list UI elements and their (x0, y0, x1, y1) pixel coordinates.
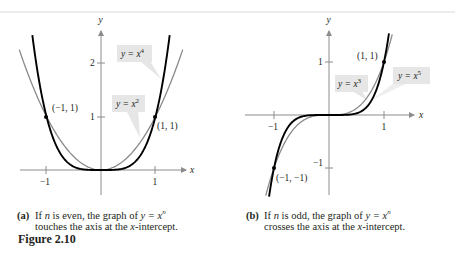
point-1-1 (382, 60, 386, 64)
caption-a-text: is even, the graph of (50, 210, 141, 221)
panel-b-x-tick-label: 1 (382, 122, 387, 132)
caption-b-exponent: n (387, 208, 391, 216)
caption-b-text: -intercept. (362, 221, 405, 232)
panel-a-graph: x y −1 1 1 2 y = x4 y = x2 (−1, 1) (1, 1… (19, 15, 195, 195)
panel-a-x-tick-label: −1 (40, 177, 50, 187)
curve-label-x4-exponent: 4 (141, 47, 145, 55)
caption-a-tag: (a) (17, 210, 35, 222)
label-callout-x2: y = x2 (112, 95, 145, 138)
figure-label: Figure 2.10 (18, 232, 76, 247)
point-1-1 (153, 115, 157, 119)
caption-b-equation: y = x (366, 210, 388, 221)
panel-b-graph: x y −1 1 1 −1 y = x3 y = x5 (1, 1) (−1, … (245, 15, 430, 197)
label-callout-x3: y = x3 (335, 75, 368, 100)
curve-label-x5: y = x (397, 71, 418, 81)
caption-a-text: If (35, 210, 45, 221)
caption-a-text: -intercept. (135, 221, 178, 232)
curve-label-x2: y = x (115, 99, 136, 109)
panel-b-y-tick-label: 1 (318, 57, 323, 67)
caption-a: (a)If n is even, the graph of y = xn tou… (17, 207, 227, 233)
panel-a-y-tick-label: 2 (90, 58, 95, 68)
caption-b-text: If (264, 210, 274, 221)
caption-b-tag: (b) (246, 210, 264, 222)
panel-b-x-tick-label: −1 (268, 122, 278, 132)
point-label-1-1: (1, 1) (357, 51, 378, 62)
caption-a-exponent: n (162, 208, 166, 216)
caption-a-equation: y = x (141, 210, 163, 221)
point-neg1-neg1 (272, 166, 276, 170)
panel-b-x-axis-label: x (418, 110, 424, 120)
panel-a-y-axis-label: y (98, 15, 104, 25)
curve-label-x2-exponent: 2 (136, 97, 140, 105)
point-neg1-1 (44, 115, 48, 119)
point-label-neg1-1: (−1, 1) (52, 103, 78, 114)
curve-label-x4: y = x (120, 49, 141, 59)
caption-b-text: is odd, the graph of (279, 210, 366, 221)
curve-label-x3-exponent: 3 (358, 77, 362, 85)
caption-b: (b)If n is odd, the graph of y = xn cros… (246, 207, 455, 233)
point-label-1-1: (1, 1) (157, 121, 178, 132)
panel-a-x-axis-label: x (189, 165, 195, 175)
panel-b-y-tick-label: −1 (313, 158, 323, 168)
panel-a-x-tick-label: 1 (153, 177, 158, 187)
curve-label-x5-exponent: 5 (418, 69, 422, 77)
label-callout-x4: y = x4 (117, 45, 161, 79)
caption-b-text: crosses the axis at the (264, 221, 358, 232)
caption-a-text: touches the axis at the (35, 221, 130, 232)
panel-b-y-axis-label: y (326, 15, 332, 25)
curve-label-x3: y = x (337, 79, 358, 89)
panel-a-y-tick-label: 1 (90, 112, 95, 122)
point-label-neg1-neg1: (−1, −1) (276, 173, 307, 184)
